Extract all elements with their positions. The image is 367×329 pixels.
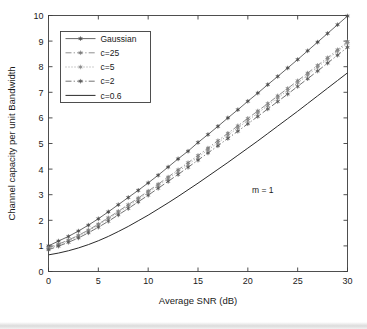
plot-annotation: m = 1 xyxy=(252,185,274,195)
y-tick-label: 5 xyxy=(38,139,43,149)
series-marker xyxy=(176,172,180,177)
legend-label: c=25 xyxy=(101,48,120,58)
y-axis-label: Channel capacity per unit Bandwidth xyxy=(6,66,17,220)
series-marker xyxy=(86,223,90,228)
legend-label: c=2 xyxy=(101,76,115,86)
y-tick-label: 9 xyxy=(38,37,43,47)
series-marker xyxy=(266,107,270,112)
series-marker xyxy=(116,202,120,207)
y-tick-label: 10 xyxy=(33,11,43,21)
figure-canvas: 051015202530012345678910Average SNR (dB)… xyxy=(0,0,367,329)
series-marker xyxy=(246,121,250,126)
series-marker xyxy=(296,84,300,89)
y-tick-label: 2 xyxy=(38,216,43,226)
legend-label: c=0.6 xyxy=(101,91,122,101)
legend-label: Gaussian xyxy=(101,34,137,44)
y-tick-label: 1 xyxy=(38,241,43,251)
x-tick-label: 10 xyxy=(143,276,153,286)
x-tick-label: 30 xyxy=(342,276,352,286)
x-tick-label: 20 xyxy=(243,276,253,286)
x-tick-label: 0 xyxy=(46,276,51,286)
series-marker xyxy=(286,92,290,97)
x-tick-label: 15 xyxy=(193,276,203,286)
y-tick-label: 4 xyxy=(38,165,43,175)
series-marker xyxy=(196,158,200,163)
x-tick-label: 25 xyxy=(293,276,303,286)
y-tick-label: 0 xyxy=(38,267,43,277)
series-marker xyxy=(146,181,150,186)
y-tick-label: 3 xyxy=(38,190,43,200)
series-marker xyxy=(256,114,260,119)
y-tick-label: 6 xyxy=(38,113,43,123)
series-marker xyxy=(96,216,100,221)
x-tick-label: 5 xyxy=(96,276,101,286)
series-marker xyxy=(86,231,90,236)
series-marker xyxy=(126,195,130,200)
series-marker xyxy=(276,99,280,104)
series-marker xyxy=(136,188,140,193)
legend-label: c=5 xyxy=(101,62,115,72)
series-marker xyxy=(236,129,240,134)
x-axis-label: Average SNR (dB) xyxy=(159,295,238,306)
series-marker xyxy=(106,210,110,215)
y-tick-label: 8 xyxy=(38,62,43,72)
y-tick-label: 7 xyxy=(38,88,43,98)
chart-plot: 051015202530012345678910Average SNR (dB)… xyxy=(0,0,367,329)
series-marker xyxy=(186,165,190,170)
